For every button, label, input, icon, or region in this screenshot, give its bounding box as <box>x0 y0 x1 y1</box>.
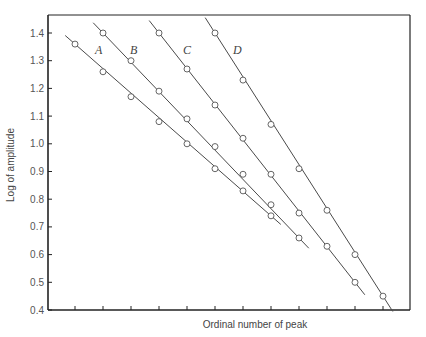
data-point-marker <box>212 144 218 150</box>
series-label-a: A <box>94 43 103 57</box>
data-point-marker <box>100 69 106 75</box>
series-label-d: D <box>232 43 242 57</box>
y-tick-label: 1.4 <box>30 28 44 39</box>
series-label-c: C <box>183 43 192 57</box>
plot-frame <box>48 15 410 310</box>
data-point-marker <box>268 213 274 219</box>
data-point-marker <box>184 141 190 147</box>
series-lines <box>65 18 393 312</box>
data-point-marker <box>380 293 386 299</box>
data-point-marker <box>156 30 162 36</box>
series-line <box>93 23 309 248</box>
data-point-marker <box>100 30 106 36</box>
y-tick-label: 0.7 <box>30 221 44 232</box>
data-point-marker <box>156 119 162 125</box>
y-axis-title: Log of amplitude <box>5 128 16 202</box>
data-point-marker <box>212 30 218 36</box>
data-point-marker <box>72 41 78 47</box>
x-axis-title: Ordinal number of peak <box>203 319 309 330</box>
data-point-marker <box>352 252 358 258</box>
data-point-marker <box>128 94 134 100</box>
data-point-marker <box>128 58 134 64</box>
data-point-marker <box>296 166 302 172</box>
data-point-marker <box>240 135 246 141</box>
series-line <box>149 21 365 295</box>
data-point-marker <box>240 188 246 194</box>
series-line <box>205 18 393 312</box>
y-tick-label: 1.0 <box>30 138 44 149</box>
series-d <box>205 18 393 312</box>
data-point-marker <box>240 171 246 177</box>
y-tick-label: 1.1 <box>30 111 44 122</box>
series-c <box>149 21 365 295</box>
series-line <box>65 35 281 224</box>
amplitude-decay-chart: 0.40.50.60.70.80.91.01.11.21.31.4 ABCD O… <box>0 0 426 337</box>
y-tick-label: 0.8 <box>30 194 44 205</box>
y-tick-label: 0.5 <box>30 277 44 288</box>
data-point-marker <box>296 210 302 216</box>
y-tick-label: 1.3 <box>30 55 44 66</box>
data-point-marker <box>268 171 274 177</box>
series-label-b: B <box>130 43 138 57</box>
data-point-marker <box>184 66 190 72</box>
data-point-marker <box>324 207 330 213</box>
y-tick-label: 1.2 <box>30 83 44 94</box>
data-point-marker <box>268 202 274 208</box>
y-tick-label: 0.6 <box>30 249 44 260</box>
series-b <box>93 23 309 248</box>
data-point-marker <box>212 166 218 172</box>
data-point-marker <box>240 77 246 83</box>
data-point-marker <box>212 102 218 108</box>
data-point-marker <box>296 235 302 241</box>
data-point-marker <box>324 243 330 249</box>
data-point-marker <box>268 121 274 127</box>
data-point-marker <box>184 116 190 122</box>
y-tick-label: 0.4 <box>30 305 44 316</box>
data-point-marker <box>156 88 162 94</box>
data-point-marker <box>352 279 358 285</box>
series-a <box>65 35 281 224</box>
y-tick-label: 0.9 <box>30 166 44 177</box>
